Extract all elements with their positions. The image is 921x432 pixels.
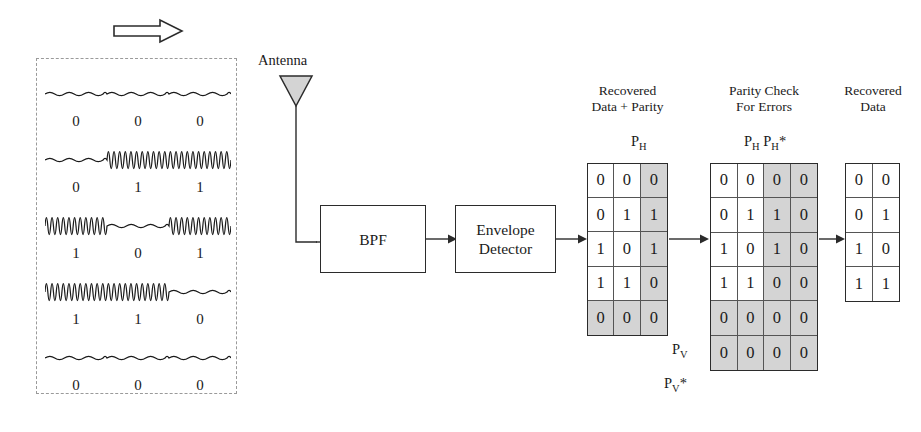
matrix-cell: 0 [791, 164, 818, 198]
heading-recovered-data-parity: Recovered Data + Parity [577, 83, 678, 115]
bpf-block[interactable]: BPF [320, 205, 426, 273]
matrix-cell: 0 [791, 336, 818, 370]
matrix-cell: 1 [846, 233, 873, 267]
bit-label: 1 [45, 309, 107, 329]
heading-recovered-data: Recovered Data [833, 83, 913, 115]
bit-label: 1 [107, 177, 169, 197]
antenna-triangle-icon [275, 72, 317, 247]
modulated-waveform-panel: 000011101110000 [36, 58, 237, 394]
matrix-cell: 0 [711, 336, 738, 370]
heading-line-1: Recovered [577, 83, 678, 99]
matrix-cell: 0 [791, 267, 818, 301]
bit-label: 0 [45, 111, 107, 131]
pv-base: P [672, 341, 680, 357]
bit-label: 0 [107, 375, 169, 395]
matrix-cell: 1 [711, 233, 738, 267]
matrix-cell: 0 [791, 198, 818, 232]
diagram-canvas: 000011101110000 Antenna BPF Envelope Det… [0, 0, 921, 432]
envelope-label-line2: Detector [479, 240, 532, 257]
heading-parity-check: Parity Check For Errors [703, 83, 825, 115]
matrix-cell: 0 [738, 233, 765, 267]
matrix-cell: 1 [873, 198, 900, 232]
matrix-cell: 0 [641, 267, 667, 301]
ph-label-recovered: PH [631, 133, 647, 152]
ph-phstar-label-parity-check: PH PH* [744, 133, 786, 152]
pvstar-star: * [680, 375, 687, 391]
matrix-cell: 0 [738, 164, 765, 198]
matrix-cell: 1 [711, 267, 738, 301]
bit-label: 1 [169, 177, 231, 197]
envelope-detector-block[interactable]: Envelope Detector [455, 205, 556, 273]
connector-envelope-matrix [556, 232, 587, 246]
heading-line-2: Data + Parity [577, 99, 678, 115]
matrix-cell: 1 [588, 232, 614, 266]
matrix-cell: 0 [641, 164, 667, 198]
connector-bpf-envelope [426, 232, 457, 246]
matrix-cell: 0 [764, 164, 791, 198]
bit-label: 0 [107, 243, 169, 263]
pv-row-label: PV [672, 341, 688, 360]
ph-a-base: P [744, 133, 752, 149]
bit-label-row: 101 [45, 243, 231, 263]
matrix-cell: 1 [764, 198, 791, 232]
bit-label: 0 [45, 375, 107, 395]
pv-sub: V [680, 349, 688, 360]
matrix-cell: 0 [588, 198, 614, 232]
bit-label-row: 011 [45, 177, 231, 197]
matrix-cell: 0 [588, 301, 614, 335]
bit-label: 1 [169, 243, 231, 263]
ph-sub: H [639, 141, 647, 152]
ph-b-sub: H [771, 141, 779, 152]
matrix-cell: 1 [641, 232, 667, 266]
bit-label: 0 [169, 309, 231, 329]
bit-label-row: 000 [45, 111, 231, 131]
matrix-cell: 0 [764, 267, 791, 301]
matrix-cell: 1 [588, 267, 614, 301]
heading-line-1: Parity Check [703, 83, 825, 99]
bit-label-row: 110 [45, 309, 231, 329]
bit-label: 0 [107, 111, 169, 131]
matrix-cell: 0 [791, 301, 818, 335]
matrix-cell: 0 [764, 336, 791, 370]
connector-matrix2-matrix3 [819, 232, 845, 246]
matrix-cell: 0 [588, 164, 614, 198]
bit-label: 0 [169, 375, 231, 395]
heading-line-2: For Errors [703, 99, 825, 115]
ph-b-star: * [779, 133, 786, 149]
bit-label: 1 [45, 243, 107, 263]
matrix-cell: 1 [846, 267, 873, 301]
pvstar-base: P [664, 375, 672, 391]
matrix-cell: 0 [711, 164, 738, 198]
bit-label-row: 000 [45, 375, 231, 395]
heading-line-2: Data [833, 99, 913, 115]
matrix-cell: 1 [873, 267, 900, 301]
matrix-cell: 1 [738, 198, 765, 232]
matrix-cell: 0 [873, 164, 900, 198]
ph-base: P [631, 133, 639, 149]
ph-a-sub: H [752, 141, 760, 152]
matrix-cell: 0 [846, 164, 873, 198]
matrix-cell: 0 [738, 336, 765, 370]
matrix-recovered-data-parity[interactable]: 000011101110000 [587, 163, 668, 336]
antenna-label: Antenna [258, 52, 307, 69]
heading-line-1: Recovered [833, 83, 913, 99]
pvstar-sub: V [672, 383, 680, 394]
matrix-cell: 1 [764, 233, 791, 267]
matrix-cell: 1 [614, 198, 640, 232]
bit-label: 1 [107, 309, 169, 329]
bpf-label: BPF [359, 230, 387, 249]
bit-label: 0 [169, 111, 231, 131]
envelope-label-line1: Envelope [476, 221, 535, 238]
matrix-cell: 0 [791, 233, 818, 267]
matrix-cell: 1 [614, 267, 640, 301]
matrix-cell: 0 [614, 301, 640, 335]
matrix-cell: 0 [641, 301, 667, 335]
matrix-parity-check[interactable]: 000001101010110000000000 [710, 163, 818, 371]
bit-label: 0 [45, 177, 107, 197]
matrix-recovered-data[interactable]: 00011011 [845, 163, 900, 302]
matrix-cell: 0 [614, 232, 640, 266]
matrix-cell: 0 [873, 233, 900, 267]
matrix-cell: 0 [711, 198, 738, 232]
matrix-cell: 0 [738, 301, 765, 335]
matrix-cell: 1 [641, 198, 667, 232]
